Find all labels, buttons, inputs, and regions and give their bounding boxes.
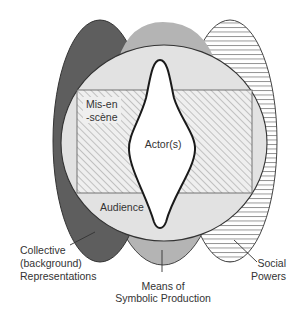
collective-label-3: Representations — [20, 270, 96, 282]
social-label-2: Powers — [251, 270, 286, 282]
mise-en-scene-label-2: -scène — [86, 111, 118, 123]
collective-label-2: (background) — [20, 257, 82, 269]
means-label-2: Symbolic Production — [115, 292, 211, 304]
performance-diagram: Mis-en -scène Actor(s) Audience Collecti… — [0, 0, 302, 315]
actors-label: Actor(s) — [145, 138, 182, 150]
audience-label: Audience — [100, 201, 144, 213]
mise-en-scene-label-1: Mis-en — [86, 98, 118, 110]
social-label-1: Social — [257, 257, 286, 269]
means-label-1: Means of — [141, 280, 184, 292]
collective-label-1: Collective — [20, 244, 66, 256]
